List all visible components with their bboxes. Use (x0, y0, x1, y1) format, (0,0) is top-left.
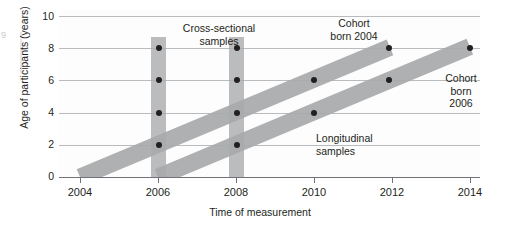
data-point-2010-cohort2004-age6 (311, 77, 317, 83)
y-tick-8: 8 (30, 43, 54, 54)
x-tick-2010 (314, 177, 315, 183)
gridline-8 (59, 48, 480, 49)
x-tick-2006 (158, 177, 159, 183)
data-point-2008-age2 (234, 142, 240, 148)
annotation-cross-sectional-line2: samples (160, 35, 278, 48)
page-edge-fragment: 9 (1, 30, 6, 40)
data-point-2006-age4 (156, 110, 162, 116)
annotation-cohort-2004-line1: Cohort (308, 17, 400, 30)
gridline-10 (59, 16, 480, 17)
annotation-cohort-2006: Cohort born 2006 (430, 72, 492, 110)
y-tick-6: 6 (30, 75, 54, 86)
annotation-cohort-2004: Cohort born 2004 (308, 17, 400, 42)
annotation-longitudinal-line2: samples (316, 145, 416, 158)
x-axis-title: Time of measurement (140, 206, 380, 218)
data-point-2012-cohort2004-age8 (386, 45, 392, 51)
annotation-cross-sectional-line1: Cross-sectional (160, 22, 278, 35)
annotation-cohort-2004-line2: born 2004 (308, 30, 400, 43)
cross-sectional-bar-2006 (151, 37, 166, 177)
annotation-cross-sectional: Cross-sectional samples (160, 22, 278, 47)
figure-root: 9 Age of participants (years) 10 8 6 4 2… (0, 0, 506, 233)
data-point-2006-age2 (156, 142, 162, 148)
data-point-2012-cohort2006-age6 (386, 77, 392, 83)
y-tick-labels: 10 8 6 4 2 0 (28, 0, 54, 183)
annotation-cohort-2006-line2: born (430, 85, 492, 98)
gridline-2 (59, 145, 480, 146)
x-tick-label-2012: 2012 (370, 186, 414, 198)
gridline-4 (59, 113, 480, 114)
data-point-2008-age6 (234, 77, 240, 83)
x-tick-2014 (470, 177, 471, 183)
x-tick-label-2004: 2004 (58, 186, 102, 198)
x-tick-2012 (392, 177, 393, 183)
y-tick-2: 2 (30, 139, 54, 150)
x-tick-label-2014: 2014 (448, 186, 492, 198)
x-tick-2004 (80, 177, 81, 183)
data-point-2014-cohort2006-age8 (467, 45, 473, 51)
cohort-band-2006 (155, 39, 473, 177)
gridline-6 (59, 80, 480, 81)
cross-sectional-bar-2008 (229, 37, 244, 177)
y-tick-0: 0 (30, 171, 54, 182)
data-point-2006-age6 (156, 77, 162, 83)
data-point-2010-cohort2006-age4 (311, 110, 317, 116)
annotation-cohort-2006-line1: Cohort (430, 72, 492, 85)
data-point-2008-age4 (234, 110, 240, 116)
annotation-cohort-2006-line3: 2006 (430, 97, 492, 110)
x-axis-line (59, 177, 480, 178)
annotation-longitudinal-line1: Longitudinal (316, 132, 416, 145)
annotation-longitudinal: Longitudinal samples (316, 132, 416, 157)
x-tick-label-2006: 2006 (136, 186, 180, 198)
x-tick-label-2008: 2008 (214, 186, 258, 198)
x-tick-2008 (236, 177, 237, 183)
y-tick-4: 4 (30, 107, 54, 118)
x-tick-label-2010: 2010 (292, 186, 336, 198)
y-tick-10: 10 (30, 11, 54, 22)
